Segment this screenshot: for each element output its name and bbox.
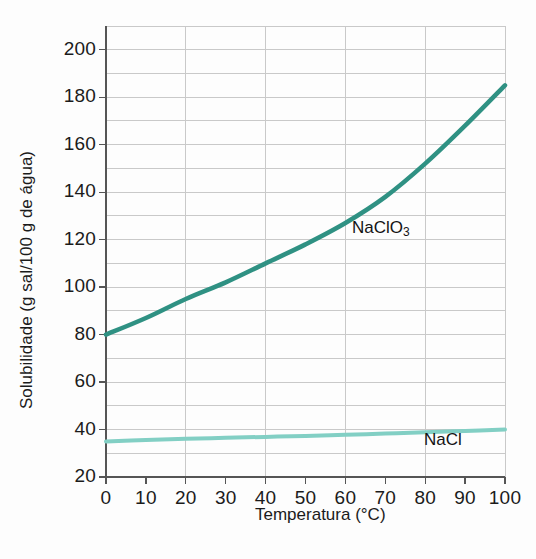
series-label-naclo3-text: NaClO [352,218,403,237]
y-tick-label: 160 [38,133,96,155]
y-axis-title-wrap: Solubilidade (g sal/100 g de água) [10,0,44,559]
axis-ticks [99,50,505,484]
y-axis-title: Solubilidade (g sal/100 g de água) [17,150,37,408]
series-label-naclo3: NaClO3 [352,218,410,238]
y-tick-label: 100 [38,275,96,297]
x-axis-title: Temperatura (°C) [255,505,386,525]
series-label-naclo3-subscript: 3 [403,225,410,239]
y-tick-label: 180 [38,85,96,107]
x-tick-label: 100 [482,487,528,509]
y-tick-label: 120 [38,228,96,250]
y-tick-label: 140 [38,180,96,202]
series-label-nacl: NaCl [424,430,462,450]
y-tick-label: 40 [38,418,96,440]
y-tick-label: 20 [38,465,96,487]
y-tick-label: 200 [38,38,96,60]
y-tick-label: 80 [38,323,96,345]
y-tick-label: 60 [38,370,96,392]
solubility-chart-figure: 20406080100120140160180200 0102030405060… [0,0,536,559]
grid-lines [106,26,505,477]
axis-lines [106,26,505,477]
